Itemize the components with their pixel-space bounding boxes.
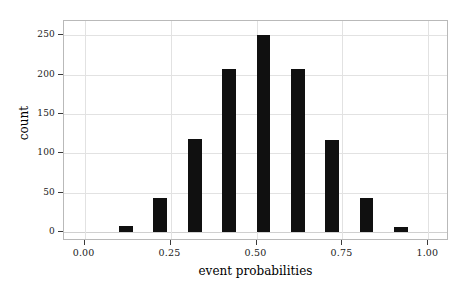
y-axis-title: count xyxy=(17,93,31,153)
x-tick-mark xyxy=(427,240,428,245)
y-tick-label: 150 xyxy=(15,109,55,118)
bar xyxy=(188,139,202,232)
gridline-horizontal xyxy=(64,75,447,76)
y-tick-label: 200 xyxy=(15,70,55,79)
gridline-horizontal xyxy=(64,35,447,36)
y-tick-label-wrap: 50 xyxy=(0,188,55,197)
y-tick-label-wrap: 0 xyxy=(0,227,55,236)
zero-baseline xyxy=(64,232,447,233)
bar xyxy=(257,35,271,232)
x-tick-label-wrap: 1.00 xyxy=(397,247,457,258)
x-tick-label: 0.50 xyxy=(226,247,286,258)
histogram-figure: count 050100150200250 0.000.250.500.751.… xyxy=(0,0,471,293)
x-tick-label: 0.00 xyxy=(54,247,114,258)
bar xyxy=(360,198,374,232)
x-tick-label: 0.75 xyxy=(311,247,371,258)
y-tick-label-wrap: 150 xyxy=(0,109,55,118)
x-tick-mark xyxy=(341,240,342,245)
x-tick-label: 1.00 xyxy=(397,247,457,258)
y-tick-label-wrap: 200 xyxy=(0,70,55,79)
gridline-vertical xyxy=(342,21,343,239)
gridline-vertical xyxy=(171,21,172,239)
plot-area xyxy=(63,20,448,240)
x-tick-mark xyxy=(170,240,171,245)
gridline-horizontal xyxy=(64,193,447,194)
x-tick-label-wrap: 0.75 xyxy=(311,247,371,258)
x-tick-label-wrap: 0.00 xyxy=(54,247,114,258)
bar xyxy=(222,69,236,232)
y-tick-label: 100 xyxy=(15,148,55,157)
x-tick-mark xyxy=(84,240,85,245)
x-tick-mark xyxy=(256,240,257,245)
y-tick-label: 50 xyxy=(15,188,55,197)
x-tick-label: 0.25 xyxy=(140,247,200,258)
gridline-vertical xyxy=(428,21,429,239)
gridline-vertical xyxy=(85,21,86,239)
x-tick-label-wrap: 0.50 xyxy=(226,247,286,258)
gridline-horizontal xyxy=(64,153,447,154)
bar xyxy=(325,140,339,232)
bar xyxy=(153,198,167,233)
y-tick-label: 250 xyxy=(15,30,55,39)
y-tick-label-wrap: 250 xyxy=(0,30,55,39)
x-axis-title: event probabilities xyxy=(63,264,448,278)
bar xyxy=(394,227,408,233)
y-tick-label: 0 xyxy=(15,227,55,236)
bar xyxy=(291,69,305,232)
gridline-horizontal xyxy=(64,114,447,115)
y-tick-label-wrap: 100 xyxy=(0,148,55,157)
bar xyxy=(119,226,133,232)
x-tick-label-wrap: 0.25 xyxy=(140,247,200,258)
